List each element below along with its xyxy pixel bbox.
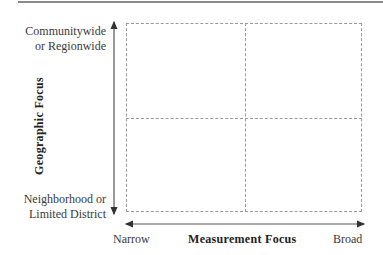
y-top-line1: Communitywide — [8, 24, 106, 39]
y-axis-bottom-label: Neighborhood or Limited District — [8, 192, 106, 222]
y-bottom-line1: Neighborhood or — [8, 192, 106, 207]
x-axis-title: Measurement Focus — [188, 232, 297, 247]
y-axis-top-label: Communitywide or Regionwide — [8, 24, 106, 54]
y-axis-title: Geographic Focus — [32, 66, 48, 186]
x-axis-right-label: Broad — [333, 232, 362, 247]
y-bottom-line2: Limited District — [8, 207, 106, 222]
y-top-line2: or Regionwide — [8, 39, 106, 54]
x-axis-left-label: Narrow — [113, 232, 150, 247]
